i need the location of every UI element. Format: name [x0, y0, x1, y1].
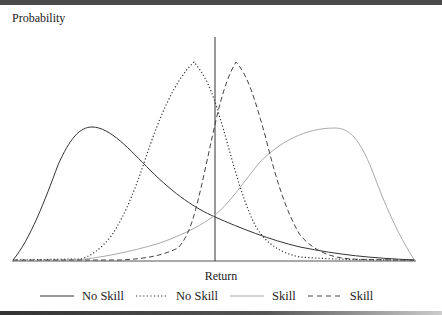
series-skill-dashed [13, 62, 415, 260]
legend-item-no-skill-dotted: No Skill [136, 289, 218, 304]
legend-label: No Skill [176, 289, 218, 304]
legend-item-no-skill-solid: No Skill [40, 289, 124, 304]
series-no-skill-solid [13, 127, 415, 260]
bottom-border-bar [0, 311, 442, 315]
solid-line-swatch-icon [40, 294, 74, 298]
legend-label: Skill [350, 289, 374, 304]
legend-item-skill-solid: Skill [230, 289, 296, 304]
chart-legend: No Skill No Skill Skill Skill [40, 288, 385, 304]
legend-label: No Skill [82, 289, 124, 304]
legend-label: Skill [272, 289, 296, 304]
light-line-swatch-icon [230, 294, 264, 298]
series-skill-solid [13, 128, 415, 261]
chart-plot-area [0, 0, 442, 315]
dotted-line-swatch-icon [136, 294, 168, 298]
legend-item-skill-dashed: Skill [308, 289, 374, 304]
series-no-skill-dotted [13, 62, 415, 260]
dashed-line-swatch-icon [308, 294, 342, 298]
x-axis-label: Return [0, 269, 442, 284]
